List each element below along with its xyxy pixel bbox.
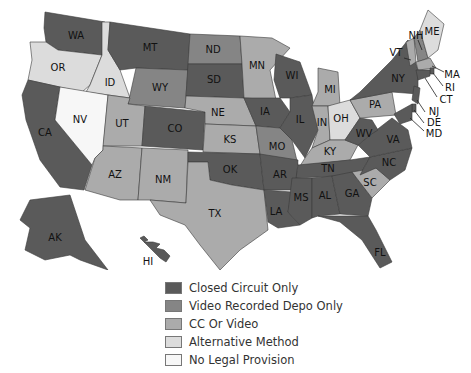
state-label-pa: PA <box>369 99 381 110</box>
state-fl <box>318 216 392 268</box>
state-label-az: AZ <box>108 169 122 180</box>
state-label-nm: NM <box>155 174 171 185</box>
state-label-de: DE <box>427 117 441 128</box>
state-label-co: CO <box>168 123 183 134</box>
state-label-ga: GA <box>345 188 360 199</box>
leader-line-de <box>414 110 424 123</box>
state-label-tn: TN <box>320 163 335 174</box>
legend-item-alt: Alternative Method <box>165 333 343 351</box>
state-label-wa: WA <box>68 30 84 41</box>
state-label-ca: CA <box>38 127 52 138</box>
state-label-va: VA <box>386 134 399 145</box>
leader-line-ct <box>425 78 437 97</box>
state-label-ar: AR <box>273 169 287 180</box>
state-label-ma: MA <box>444 69 460 80</box>
state-label-mi: MI <box>324 84 336 95</box>
state-label-ak: AK <box>48 232 62 243</box>
state-label-ny: NY <box>391 73 405 84</box>
state-md <box>394 104 412 124</box>
state-label-vt: VT <box>390 47 404 58</box>
state-label-wv: WV <box>356 128 373 139</box>
legend-swatch <box>165 318 182 330</box>
legend-label: CC Or Video <box>189 317 258 331</box>
state-label-ok: OK <box>223 164 238 175</box>
legend-label: Video Recorded Depo Only <box>189 299 343 313</box>
state-label-ct: CT <box>439 94 453 105</box>
state-label-id: ID <box>105 77 116 88</box>
state-label-sd: SD <box>207 74 221 85</box>
state-label-me: ME <box>425 26 440 37</box>
state-label-mt: MT <box>143 42 159 53</box>
legend-swatch <box>165 354 182 366</box>
state-label-ia: IA <box>260 106 270 117</box>
state-label-ut: UT <box>115 118 129 129</box>
leader-line-ri <box>433 73 443 86</box>
state-label-tx: TX <box>208 208 222 219</box>
state-label-la: LA <box>270 206 283 217</box>
state-label-sc: SC <box>363 177 376 188</box>
state-label-fl: FL <box>374 247 386 258</box>
state-label-nv: NV <box>73 114 87 125</box>
legend-label: Closed Circuit Only <box>189 281 298 295</box>
state-label-mn: MN <box>249 60 265 71</box>
state-ct <box>416 70 430 80</box>
state-label-hi: HI <box>143 256 153 267</box>
legend-item-closed: Closed Circuit Only <box>165 279 343 297</box>
state-label-nd: ND <box>205 44 220 55</box>
state-label-ky: KY <box>324 146 337 157</box>
us-map: WAORCAIDNVMTWYUTAZCONMNDSDNEKSOKTXMNIAMO… <box>0 0 471 270</box>
leader-line-nj <box>417 100 425 112</box>
state-label-mo: MO <box>269 141 286 152</box>
legend-swatch <box>165 336 182 348</box>
state-label-al: AL <box>319 190 332 201</box>
state-label-ri: RI <box>445 82 455 93</box>
state-label-in: IN <box>317 117 327 128</box>
state-label-nj: NJ <box>429 106 439 117</box>
state-label-ms: MS <box>294 192 309 203</box>
state-label-md: MD <box>426 128 443 139</box>
state-label-wy: WY <box>152 82 169 93</box>
legend-label: No Legal Provision <box>189 353 295 367</box>
state-ak <box>20 195 108 270</box>
state-label-ks: KS <box>224 134 237 145</box>
legend-swatch <box>165 300 182 312</box>
legend-item-video: Video Recorded Depo Only <box>165 297 343 315</box>
state-label-il: IL <box>296 114 305 125</box>
state-label-or: OR <box>51 62 66 73</box>
state-label-nh: NH <box>409 30 424 41</box>
legend-label: Alternative Method <box>189 335 299 349</box>
state-label-nc: NC <box>382 157 396 168</box>
state-label-ne: NE <box>211 107 225 118</box>
legend-item-ccvideo: CC Or Video <box>165 315 343 333</box>
state-label-oh: OH <box>333 113 348 124</box>
legend: Closed Circuit OnlyVideo Recorded Depo O… <box>165 279 343 369</box>
legend-item-none: No Legal Provision <box>165 351 343 369</box>
legend-swatch <box>165 282 182 294</box>
state-label-wi: WI <box>286 70 299 81</box>
state-de <box>412 104 416 112</box>
